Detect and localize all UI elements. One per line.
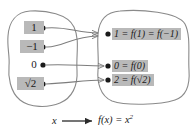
range-element-1: 1 = f(1) = f(−1) xyxy=(112,28,181,40)
range-dot-1 xyxy=(105,31,110,36)
caption-rule-exponent: 2 xyxy=(130,113,134,121)
arrow-1-to-1 xyxy=(46,28,98,33)
range-dot-2 xyxy=(105,77,110,82)
caption-rule: f(x) = x2 xyxy=(98,115,133,126)
caption-rule-text: f(x) = x xyxy=(98,114,130,125)
range-element-2: 2 = f(√2) xyxy=(112,74,154,86)
arrow-0-to-0 xyxy=(46,65,104,66)
mapping-diagram: 1 −1 0 √2 1 = f(1) = f(−1) 0 = f(0) 2 = … xyxy=(0,0,195,138)
range-dot-0 xyxy=(105,63,110,68)
arrow-sqrt2-to-2 xyxy=(46,80,104,84)
domain-element-1: 1 xyxy=(24,21,44,34)
arrow-neg1-to-1 xyxy=(46,36,98,47)
domain-element-0: 0 xyxy=(24,58,44,71)
range-element-0: 0 = f(0) xyxy=(112,60,148,72)
domain-element-sqrt2: √2 xyxy=(17,77,44,90)
range-blob-outline xyxy=(98,10,189,104)
caption-input-var: x xyxy=(52,116,57,127)
domain-element-neg1: −1 xyxy=(20,40,44,53)
